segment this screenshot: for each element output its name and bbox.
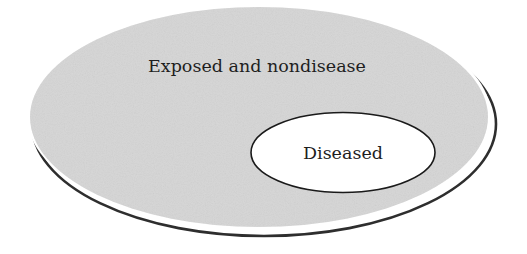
outer-ellipse-exposed-nondisease bbox=[30, 7, 488, 227]
venn-diagram: Exposed and nondisease Diseased bbox=[0, 0, 527, 254]
inner-ellipse-label: Diseased bbox=[303, 143, 383, 163]
outer-ellipse-label: Exposed and nondisease bbox=[148, 56, 366, 76]
